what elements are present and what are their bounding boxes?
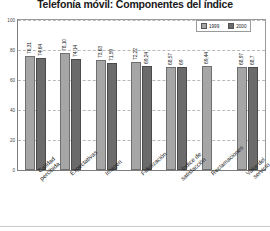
bar-value-label: 69,44 xyxy=(204,52,209,64)
bar-group: 76,3174,64 xyxy=(18,20,53,170)
bar-group: 72,2269,24 xyxy=(124,20,159,170)
legend-label-series1: 1999 xyxy=(209,24,219,29)
bar-group: 73,6371,59 xyxy=(89,20,124,170)
bar-value-label: 76,31 xyxy=(27,42,32,54)
y-tick-label: 80 xyxy=(0,48,15,53)
bar[interactable] xyxy=(177,67,187,171)
bar[interactable] xyxy=(36,58,46,170)
y-tick-label: 0 xyxy=(0,168,15,173)
bar-value-label: 68,57 xyxy=(168,53,173,65)
legend-item-series1: 1999 xyxy=(201,23,219,29)
bar[interactable] xyxy=(248,67,258,170)
bar[interactable] xyxy=(202,66,212,170)
bar-group: 68,5769 xyxy=(159,20,194,170)
bar-series-layer: 76,3174,6478,1074,1473,6371,5972,2269,24… xyxy=(18,20,265,170)
bar[interactable] xyxy=(142,66,152,170)
x-axis-category-labels: CalidadpercibidaExpectativasImagenFideli… xyxy=(18,172,265,231)
bar-value-label: 74,64 xyxy=(38,44,43,56)
bar-value-label: 73,63 xyxy=(98,46,103,58)
bar-value-label: 74,14 xyxy=(73,45,78,57)
y-tick-label: 40 xyxy=(0,108,15,113)
chart-title: Telefonía móvil: Componentes del índice xyxy=(0,0,270,12)
bottom-divider xyxy=(0,226,270,227)
bar-group: 78,1074,14 xyxy=(53,20,88,170)
bar[interactable] xyxy=(60,53,70,170)
bar-value-label: 68,7 xyxy=(250,56,255,65)
bar-value-label: 68,97 xyxy=(239,53,244,65)
legend-swatch-series2 xyxy=(228,23,234,29)
bar[interactable] xyxy=(71,59,81,170)
bar-group: 68,9768,7 xyxy=(230,20,265,170)
bar-value-label: 69,24 xyxy=(144,52,149,64)
bar-value-label: 72,22 xyxy=(133,48,138,60)
y-tick-label: 100 xyxy=(0,18,15,23)
chart-container: Telefonía móvil: Componentes del índice … xyxy=(0,0,270,231)
bar-value-label: 78,10 xyxy=(62,39,67,51)
y-tick-label: 20 xyxy=(0,138,15,143)
legend-swatch-series1 xyxy=(201,23,207,29)
bar-group: 69,44 xyxy=(194,20,229,170)
bar[interactable] xyxy=(131,62,141,170)
bar-value-label: 71,59 xyxy=(109,49,114,61)
chart-legend: 1999 2000 xyxy=(196,20,251,32)
bar[interactable] xyxy=(107,63,117,170)
y-tick-label: 60 xyxy=(0,78,15,83)
legend-label-series2: 2000 xyxy=(236,24,246,29)
bar[interactable] xyxy=(25,56,35,170)
bar-value-label: 69 xyxy=(179,59,184,64)
legend-item-series2: 2000 xyxy=(228,23,246,29)
